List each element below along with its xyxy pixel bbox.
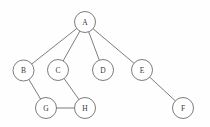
- graph-node-a[interactable]: A: [75, 12, 96, 33]
- graph-node-label-b: B: [21, 66, 26, 75]
- graph-edge-a-b: [32, 28, 77, 64]
- graph-edge-e-f: [149, 77, 175, 101]
- graph-node-label-c: C: [55, 66, 60, 75]
- graph-node-label-a: A: [82, 18, 88, 27]
- graph-node-d[interactable]: D: [93, 60, 114, 81]
- graph-node-f[interactable]: F: [173, 98, 194, 119]
- graph-node-e[interactable]: E: [132, 60, 153, 81]
- graph-node-g[interactable]: G: [36, 98, 57, 119]
- graph-edge-b-g: [29, 79, 41, 99]
- graph-canvas: ABCDEGHF: [0, 0, 210, 127]
- graph-node-label-g: G: [43, 104, 49, 113]
- graph-edge-c-h: [64, 78, 79, 99]
- graph-node-c[interactable]: C: [48, 60, 69, 81]
- graph-node-b[interactable]: B: [13, 60, 34, 81]
- node-layer: ABCDEGHF: [13, 12, 194, 119]
- graph-node-h[interactable]: H: [75, 98, 96, 119]
- graph-edge-a-d: [89, 32, 100, 61]
- graph-node-label-h: H: [82, 104, 88, 113]
- graph-node-label-f: F: [181, 104, 185, 113]
- graph-edge-a-c: [63, 31, 80, 61]
- graph-node-label-d: D: [100, 66, 106, 75]
- graph-diagram: ABCDEGHF: [0, 0, 210, 127]
- graph-node-label-e: E: [140, 66, 145, 75]
